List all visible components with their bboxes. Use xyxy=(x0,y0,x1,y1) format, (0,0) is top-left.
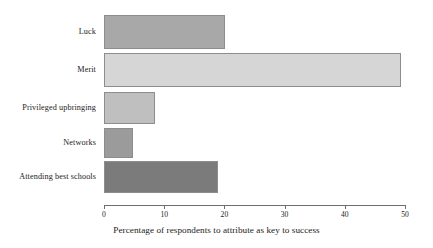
category-label-attending-best-schools: Attending best schools xyxy=(19,173,96,181)
x-tick-mark xyxy=(104,205,105,209)
category-axis: Luck Merit Privileged upbringing Network… xyxy=(0,0,100,205)
bar-luck xyxy=(104,15,225,49)
plot-area xyxy=(104,0,405,205)
x-tick-mark xyxy=(285,205,286,209)
category-label-networks: Networks xyxy=(63,139,96,147)
category-label-privileged-upbringing: Privileged upbringing xyxy=(22,104,96,112)
bar-networks xyxy=(104,128,133,158)
x-tick-label: 40 xyxy=(333,211,357,219)
x-tick-mark xyxy=(405,205,406,209)
x-tick-label: 20 xyxy=(212,211,236,219)
x-tick-label: 10 xyxy=(152,211,176,219)
x-axis-title: Percentage of respondents to attribute a… xyxy=(0,226,433,235)
x-tick-label: 30 xyxy=(273,211,297,219)
x-tick-mark xyxy=(164,205,165,209)
x-tick-label: 0 xyxy=(92,211,116,219)
bar-attending-best-schools xyxy=(104,161,218,193)
x-tick-mark xyxy=(224,205,225,209)
category-label-luck: Luck xyxy=(79,28,96,36)
bar-chart: Luck Merit Privileged upbringing Network… xyxy=(0,0,433,248)
x-axis-line xyxy=(104,205,406,206)
x-tick-label: 50 xyxy=(393,211,417,219)
bar-merit xyxy=(104,53,401,87)
bar-privileged-upbringing xyxy=(104,92,155,125)
x-tick-mark xyxy=(345,205,346,209)
category-label-merit: Merit xyxy=(77,66,96,74)
